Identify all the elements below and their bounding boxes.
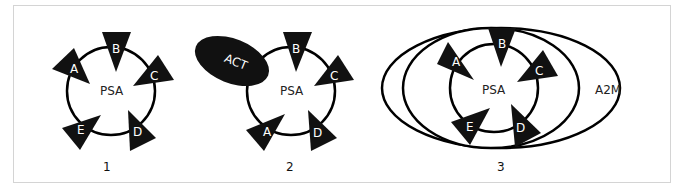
panel-number: 2 bbox=[286, 160, 294, 174]
panel-number: 1 bbox=[103, 160, 111, 174]
site-d-label: D bbox=[133, 125, 142, 139]
site-e-label: E bbox=[77, 123, 85, 137]
site-d-label: D bbox=[313, 126, 322, 140]
psa-label: PSA bbox=[280, 84, 304, 98]
site-a-label: A bbox=[70, 62, 79, 76]
a2m-label: A2M bbox=[595, 83, 621, 97]
site-b-label: B bbox=[292, 42, 300, 56]
site-d-label: D bbox=[516, 121, 525, 135]
site-b-label: B bbox=[112, 42, 120, 56]
panel-1: A B C D E PSA 1 bbox=[52, 32, 174, 174]
diagram-canvas: A B C D E PSA 1 ACT B C D A PSA 2 bbox=[0, 0, 680, 193]
site-a-label: A bbox=[452, 55, 461, 69]
site-b-label: B bbox=[498, 37, 506, 51]
psa-label: PSA bbox=[100, 84, 124, 98]
panel-number: 3 bbox=[497, 160, 505, 174]
site-c-label: C bbox=[150, 69, 158, 83]
site-c-label: C bbox=[330, 69, 338, 83]
site-a-label: A bbox=[263, 125, 272, 139]
panel-3: A B C D E PSA A2M 3 bbox=[382, 28, 621, 174]
psa-label: PSA bbox=[482, 83, 506, 97]
panel-2: ACT B C D A PSA 2 bbox=[188, 26, 354, 174]
site-c-label: C bbox=[535, 64, 543, 78]
site-e-label: E bbox=[466, 120, 474, 134]
